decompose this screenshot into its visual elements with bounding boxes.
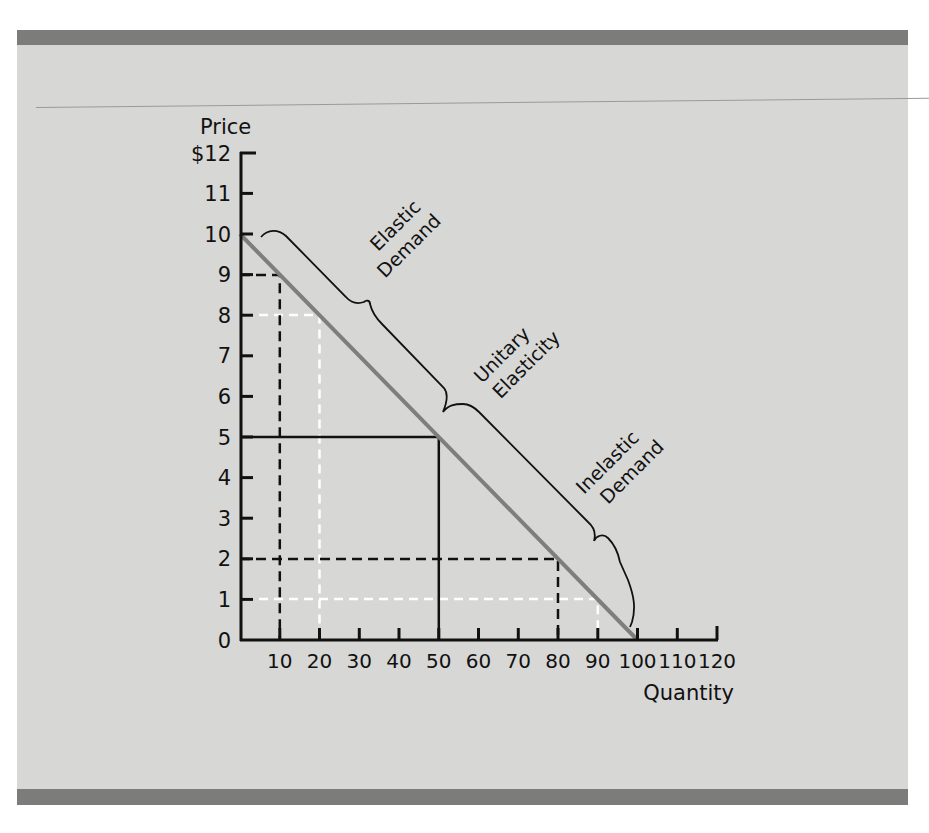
y-tick-12: $12 bbox=[191, 142, 231, 166]
x-tick-40: 40 bbox=[386, 649, 411, 673]
y-tick-3: 3 bbox=[218, 507, 231, 531]
y-axis-title: Price bbox=[200, 115, 251, 139]
y-tick-7: 7 bbox=[218, 344, 231, 368]
x-tick-120: 120 bbox=[698, 649, 736, 673]
y-tick-labels: 0 1 2 3 4 5 6 7 8 9 10 11 $12 bbox=[191, 142, 231, 653]
x-axis-ticks bbox=[280, 626, 717, 640]
x-tick-60: 60 bbox=[466, 649, 491, 673]
x-tick-50: 50 bbox=[426, 649, 451, 673]
x-tick-110: 110 bbox=[658, 649, 696, 673]
x-tick-20: 20 bbox=[307, 649, 332, 673]
x-tick-labels: 10 20 30 40 50 60 70 80 90 100 110 120 bbox=[267, 649, 736, 673]
y-tick-9: 9 bbox=[218, 263, 231, 287]
y-tick-2: 2 bbox=[218, 547, 231, 571]
demand-elasticity-chart: 0 1 2 3 4 5 6 7 8 9 10 11 $12 10 20 30 4… bbox=[0, 0, 929, 833]
y-axis-ticks bbox=[241, 193, 253, 599]
x-tick-10: 10 bbox=[267, 649, 292, 673]
y-tick-6: 6 bbox=[218, 385, 231, 409]
unitary-rectangle bbox=[240, 437, 439, 640]
x-tick-70: 70 bbox=[506, 649, 531, 673]
x-tick-30: 30 bbox=[347, 649, 372, 673]
x-tick-100: 100 bbox=[618, 649, 656, 673]
y-tick-1: 1 bbox=[218, 588, 231, 612]
x-tick-80: 80 bbox=[545, 649, 570, 673]
y-tick-0: 0 bbox=[218, 629, 231, 653]
annotation-labels: Elastic Demand Unitary Elasticity Inelas… bbox=[355, 192, 667, 515]
x-tick-90: 90 bbox=[585, 649, 610, 673]
axes bbox=[240, 152, 718, 641]
y-tick-5: 5 bbox=[218, 426, 231, 450]
y-tick-4: 4 bbox=[218, 466, 231, 490]
x-axis-title: Quantity bbox=[643, 681, 734, 705]
y-tick-8: 8 bbox=[218, 304, 231, 328]
y-tick-11: 11 bbox=[204, 182, 231, 206]
elasticity-braces bbox=[261, 231, 634, 627]
y-tick-10: 10 bbox=[204, 223, 231, 247]
